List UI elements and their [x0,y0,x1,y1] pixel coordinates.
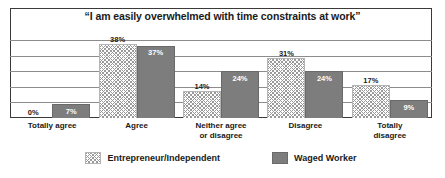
bar-value-label: 0% [28,109,39,117]
bar-group: 14%24% [179,40,263,118]
bar-value-label: 24% [233,75,248,83]
bar-value-label: 31% [279,50,294,58]
bar-group: 0%7% [10,40,94,118]
bar[interactable]: 38% [99,44,137,118]
bar[interactable]: 31% [267,58,305,118]
plot-area: 0%7%38%37%14%24%31%24%17%9% [10,40,432,118]
bar-group: 17%9% [348,40,432,118]
bar-slot: 14% [183,40,221,118]
category-label: Agree [94,121,178,141]
bar-slot: 24% [305,40,343,118]
category-label: Totally agree [10,121,94,141]
bar[interactable]: 9% [390,100,428,118]
solid-swatch-icon [272,152,288,164]
bar-slot: 17% [352,40,390,118]
bar[interactable]: 14% [183,91,221,118]
category-axis-labels: Totally agreeAgreeNeither agree or disag… [10,121,432,141]
chart-legend: Entrepreneur/IndependentWaged Worker [10,152,432,164]
bar-group: 31%24% [263,40,347,118]
legend-label: Waged Worker [294,153,357,163]
bar[interactable]: 24% [305,71,343,118]
bar-value-label: 7% [66,108,77,116]
category-label: Totally disagree [348,121,432,141]
bar-groups: 0%7%38%37%14%24%31%24%17%9% [10,40,432,118]
bar-value-label: 9% [403,104,414,112]
bar-value-label: 24% [317,75,332,83]
bar-chart: “I am easily overwhelmed with time const… [0,0,445,178]
bar-slot: 38% [99,40,137,118]
bar[interactable]: 7% [52,104,90,118]
bar-slot: 7% [52,40,90,118]
bar-value-label: 14% [195,83,210,91]
bar[interactable]: 24% [221,71,259,118]
bar-slot: 24% [221,40,259,118]
legend-item[interactable]: Waged Worker [272,152,357,164]
bar-slot: 0% [14,40,52,118]
bar-slot: 37% [137,40,175,118]
bar-value-label: 38% [110,36,125,44]
category-label: Neither agree or disagree [179,121,263,141]
chart-title: “I am easily overwhelmed with time const… [0,10,445,22]
category-label: Disagree [263,121,347,141]
bar-slot: 31% [267,40,305,118]
legend-label: Entrepreneur/Independent [107,153,220,163]
legend-item[interactable]: Entrepreneur/Independent [85,152,220,164]
bar[interactable]: 37% [137,46,175,118]
bar-slot: 9% [390,40,428,118]
bar-group: 38%37% [94,40,178,118]
bar-value-label: 17% [363,77,378,85]
bar-value-label: 37% [148,49,163,57]
hatched-swatch-icon [85,152,101,164]
bar[interactable]: 17% [352,85,390,118]
